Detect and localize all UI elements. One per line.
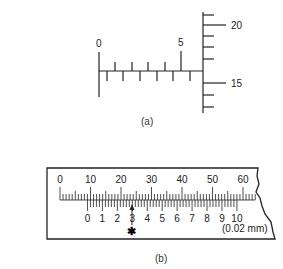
vernier-scale-label: 3	[130, 213, 136, 224]
figure-a	[99, 12, 226, 113]
scale-a-label-5: 5	[178, 37, 184, 48]
vernier-scale-labels: 012345678910	[85, 213, 243, 224]
caption-b: (b)	[155, 253, 167, 264]
vernier-scale-label: 6	[174, 213, 180, 224]
main-scale-label: 40	[176, 174, 188, 185]
vernier-scale-label: 7	[189, 213, 195, 224]
vernier-scale-ticks	[87, 200, 236, 211]
unit-note: (0.02 mm)	[222, 223, 268, 234]
scale-a-label-20: 20	[231, 20, 243, 31]
main-scale-ticks	[60, 187, 255, 200]
scale-a-label-0: 0	[96, 38, 102, 49]
main-scale-label: 50	[207, 174, 219, 185]
main-scale-label: 60	[237, 174, 249, 185]
caption-a: (a)	[141, 116, 153, 127]
vernier-scale-label: 4	[144, 213, 150, 224]
vernier-figure: 0 5 20 15 (a) 0102030405060 012345678910…	[0, 0, 283, 269]
asterisk-marker-icon: ✱	[127, 225, 136, 237]
main-scale-label: 10	[85, 174, 97, 185]
vernier-scale-label: 2	[115, 213, 121, 224]
scale-a-label-15: 15	[231, 78, 243, 89]
vernier-scale-label: 8	[204, 213, 210, 224]
arrow-head-icon	[130, 204, 135, 210]
vernier-scale-label: 1	[100, 213, 106, 224]
main-scale-label: 20	[115, 174, 127, 185]
main-scale-label: 30	[146, 174, 158, 185]
main-scale-label: 0	[57, 174, 63, 185]
vernier-scale-label: 0	[85, 213, 91, 224]
main-scale-labels: 0102030405060	[57, 174, 249, 185]
vernier-scale-label: 5	[159, 213, 165, 224]
